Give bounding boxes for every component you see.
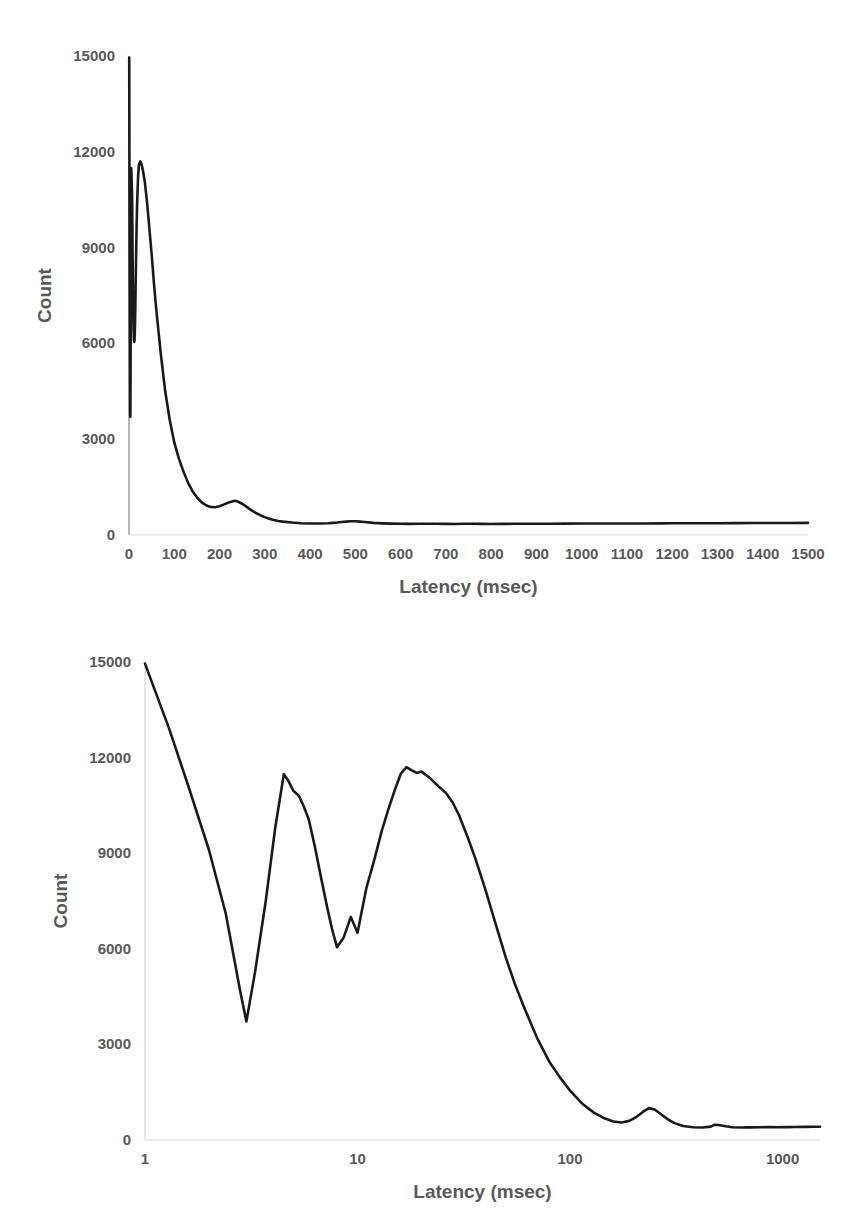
y-tick-3000: 3000 <box>82 430 115 447</box>
x-tick-1: 1 <box>141 1150 149 1167</box>
x-tick-10: 10 <box>349 1150 366 1167</box>
y-tick-6000: 6000 <box>82 334 115 351</box>
log-latency-chart: 03000600090001200015000 1101001000 Laten… <box>0 605 864 1210</box>
x-tick-600: 600 <box>388 545 413 562</box>
x-tick-200: 200 <box>207 545 232 562</box>
linear-latency-chart: 03000600090001200015000 0100200300400500… <box>0 0 864 605</box>
x-tick-1000: 1000 <box>565 545 598 562</box>
x-tick-labels: 0100200300400500600700800900100011001200… <box>125 545 825 562</box>
chart-panel-log: 03000600090001200015000 1101001000 Laten… <box>0 605 864 1210</box>
y-tick-labels: 03000600090001200015000 <box>73 47 115 543</box>
x-tick-700: 700 <box>433 545 458 562</box>
x-tick-1400: 1400 <box>746 545 779 562</box>
y-tick-12000: 12000 <box>73 143 115 160</box>
y-axis-title: Count <box>34 267 55 323</box>
y-tick-15000: 15000 <box>89 653 131 670</box>
chart-panel-linear: 03000600090001200015000 0100200300400500… <box>0 0 864 605</box>
y-tick-9000: 9000 <box>82 239 115 256</box>
y-axis-title: Count <box>50 873 71 929</box>
y-tick-0: 0 <box>107 526 115 543</box>
x-tick-300: 300 <box>252 545 277 562</box>
y-tick-labels: 03000600090001200015000 <box>89 653 131 1148</box>
x-tick-100: 100 <box>558 1150 583 1167</box>
x-tick-100: 100 <box>162 545 187 562</box>
y-tick-15000: 15000 <box>73 47 115 64</box>
x-tick-1500: 1500 <box>791 545 824 562</box>
x-tick-1100: 1100 <box>611 545 644 562</box>
x-tick-1300: 1300 <box>701 545 734 562</box>
x-tick-1200: 1200 <box>656 545 689 562</box>
x-tick-900: 900 <box>524 545 549 562</box>
x-tick-labels: 1101001000 <box>141 1150 799 1167</box>
x-tick-0: 0 <box>125 545 133 562</box>
data-series-line <box>145 664 820 1128</box>
data-series-line <box>129 58 808 524</box>
y-tick-0: 0 <box>123 1131 131 1148</box>
x-tick-400: 400 <box>298 545 323 562</box>
x-tick-800: 800 <box>479 545 504 562</box>
x-tick-500: 500 <box>343 545 368 562</box>
y-tick-12000: 12000 <box>89 749 131 766</box>
y-tick-3000: 3000 <box>98 1035 131 1052</box>
x-axis-title: Latency (msec) <box>413 1181 551 1202</box>
x-axis-title: Latency (msec) <box>399 576 537 597</box>
y-tick-6000: 6000 <box>98 940 131 957</box>
y-tick-9000: 9000 <box>98 844 131 861</box>
x-tick-1000: 1000 <box>766 1150 799 1167</box>
